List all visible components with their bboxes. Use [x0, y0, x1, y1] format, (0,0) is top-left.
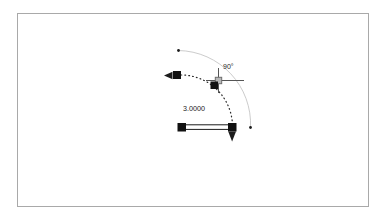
- length-dimension-text[interactable]: 3.0000: [183, 104, 205, 113]
- grip-arc-start[interactable]: [173, 71, 181, 79]
- angle-dimension-text[interactable]: 90°: [223, 63, 234, 70]
- defpoint-right-icon: [249, 126, 252, 129]
- cad-drawing-area: 90° 3.0000: [0, 0, 385, 219]
- defpoint-top-icon: [177, 49, 180, 52]
- grip-segment-right[interactable]: [228, 123, 237, 132]
- baseline-segment[interactable]: [181, 125, 233, 130]
- grip-segment-left[interactable]: [178, 123, 187, 132]
- grip-hot[interactable]: [211, 82, 219, 90]
- figure-canvas: 90° 3.0000: [0, 0, 385, 219]
